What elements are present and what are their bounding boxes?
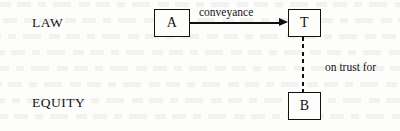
on-trust-for-dashed-link: [302, 37, 304, 92]
node-a: A: [154, 9, 190, 37]
ghost-text-line: [0, 82, 400, 87]
node-t: T: [288, 9, 321, 37]
edge-label-on-trust-for: on trust for: [325, 62, 376, 74]
node-b: B: [288, 92, 321, 120]
ghost-text-line: [0, 34, 400, 39]
ghost-text-line: [0, 114, 400, 119]
ghost-text-line: [0, 50, 400, 55]
tier-label-equity: EQUITY: [32, 96, 85, 110]
conveyance-arrow: [190, 22, 288, 24]
edge-label-conveyance: conveyance: [199, 7, 253, 19]
arrow-head-icon: [279, 18, 288, 26]
tier-label-law: LAW: [32, 16, 63, 30]
arrow-shaft: [190, 22, 280, 24]
trust-relationship-diagram: LAW EQUITY A T B conveyance on trust for: [0, 0, 400, 131]
